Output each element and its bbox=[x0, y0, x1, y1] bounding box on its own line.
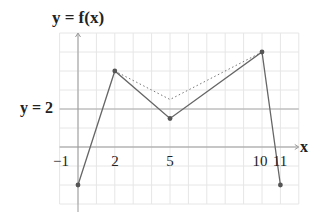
data-point bbox=[168, 116, 173, 121]
data-point bbox=[260, 50, 265, 55]
f-series-line bbox=[78, 52, 280, 185]
x-tick-label-11: 11 bbox=[273, 153, 287, 169]
data-point bbox=[112, 69, 117, 74]
chart-title: y = f(x) bbox=[52, 8, 104, 27]
x-tick-label-10: 10 bbox=[253, 153, 268, 169]
x-tick-label-neg1: −1 bbox=[53, 153, 69, 169]
data-point bbox=[76, 183, 81, 188]
data-point bbox=[278, 183, 283, 188]
x-axis-label: x bbox=[300, 138, 308, 155]
reference-line-label: y = 2 bbox=[20, 99, 53, 117]
chart: y = f(x) x y = 2 −1 2 5 10 11 bbox=[0, 0, 326, 215]
x-tick-label-5: 5 bbox=[166, 153, 174, 169]
x-tick-label-2: 2 bbox=[111, 153, 119, 169]
